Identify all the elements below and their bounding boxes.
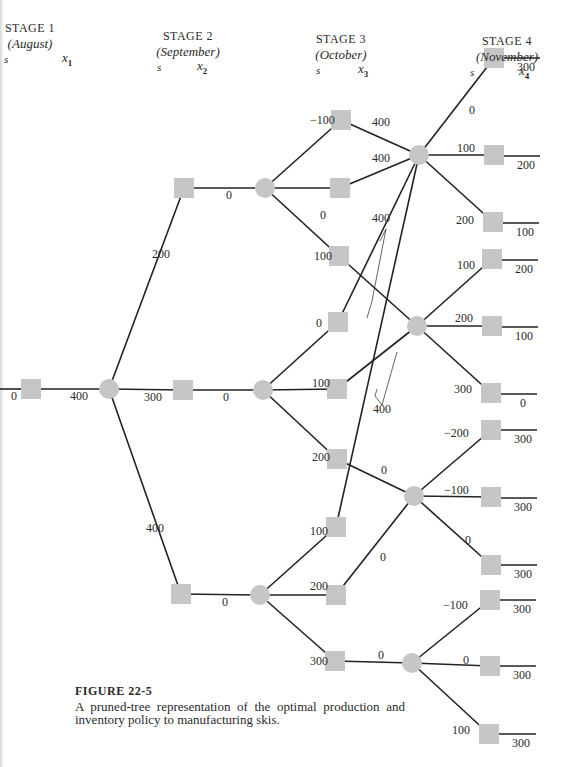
stage-month: (September) <box>138 44 238 59</box>
state-var-label-4: s <box>470 66 474 78</box>
decision-node-square <box>481 420 501 440</box>
terminal-value: 0 <box>520 396 526 410</box>
decision-node-square <box>327 449 347 469</box>
stage-header-2: STAGE 2 (September) <box>138 29 238 59</box>
terminal-lines: 3002001002001000300300300300300300 <box>499 58 540 750</box>
terminal-value: 100 <box>515 329 533 343</box>
decision-node-square <box>173 380 193 400</box>
edge-label: −100 <box>310 113 335 127</box>
tree-edge <box>265 120 341 188</box>
edge-label: 200 <box>312 450 330 464</box>
tree-edge <box>337 459 414 496</box>
decision-node-square <box>480 656 500 676</box>
tree-edge <box>260 595 335 661</box>
decision-var-subscript: 3 <box>364 69 369 79</box>
edge-label: 400 <box>372 115 390 129</box>
figure-description: A pruned-tree representation of the opti… <box>75 700 405 726</box>
stage-header-4: STAGE 4 (November) <box>457 34 557 64</box>
tree-edge <box>335 661 412 663</box>
tree-edge <box>419 155 493 222</box>
edge-label: 200 <box>456 213 474 227</box>
stage-header-1: STAGE 1 (August) <box>0 21 80 51</box>
decision-var-subscript: 1 <box>68 58 73 68</box>
stage-title: STAGE 2 <box>138 29 238 44</box>
decision-node-square <box>327 379 347 399</box>
edge-label: 0 <box>320 208 326 222</box>
edge-label: 0 <box>380 550 386 564</box>
decision-var-label-4: x4 <box>519 63 529 81</box>
decision-node-square <box>328 312 348 332</box>
tree-edge <box>181 594 260 595</box>
edge-labels: 0400300200400000−10001000100200100200300… <box>11 103 475 737</box>
edge-label: 400 <box>70 389 88 403</box>
decision-node-square <box>174 178 194 198</box>
edge-label: 300 <box>454 382 472 396</box>
edge-label: 100 <box>310 524 328 538</box>
stage-title: STAGE 3 <box>291 32 391 47</box>
label-brackets <box>367 229 397 405</box>
edge-label: 400 <box>373 402 391 416</box>
edge-label: 200 <box>152 247 170 261</box>
tree-nodes <box>21 48 504 744</box>
decision-node-square <box>484 145 504 165</box>
stage-header-3: STAGE 3 (October) <box>291 32 391 62</box>
tree-edge <box>336 496 414 595</box>
tree-edge <box>412 663 489 734</box>
edge-label: 300 <box>310 654 328 668</box>
chance-node-circle <box>402 653 422 673</box>
decision-var-label-3: x3 <box>358 61 368 79</box>
stage-title: STAGE 4 <box>457 34 557 49</box>
edge-label: 100 <box>457 258 475 272</box>
decision-var-subscript: 2 <box>203 66 208 76</box>
terminal-value: 300 <box>514 500 532 514</box>
stage-title: STAGE 1 <box>0 21 80 36</box>
decision-node-square <box>171 584 191 604</box>
edge-label: 0 <box>222 595 228 609</box>
edge-label: 100 <box>452 723 470 737</box>
stage-month: (August) <box>0 36 80 51</box>
stage-month: (November) <box>457 49 557 64</box>
edge-label: 200 <box>455 311 473 325</box>
terminal-value: 200 <box>517 158 535 172</box>
chance-node-circle <box>253 380 273 400</box>
chance-node-circle <box>250 585 270 605</box>
decision-node-square <box>326 517 346 537</box>
stage-month: (October) <box>291 47 391 62</box>
terminal-value: 300 <box>514 567 532 581</box>
decision-node-square <box>483 212 503 232</box>
tree-edge <box>412 663 490 666</box>
chance-node-circle <box>404 486 424 506</box>
state-var-label-3: s <box>316 64 320 76</box>
decision-node-square <box>21 379 41 399</box>
decision-var-label-2: x2 <box>197 58 207 76</box>
terminal-value: 200 <box>515 262 533 276</box>
terminal-value: 300 <box>514 432 532 446</box>
edge-label: 0 <box>469 103 475 117</box>
decision-node-square <box>325 651 345 671</box>
terminal-value: 300 <box>513 668 531 682</box>
decision-node-square <box>329 246 349 266</box>
decision-var-label-1: x1 <box>62 50 72 68</box>
tree-edge <box>338 155 419 322</box>
decision-node-square <box>480 590 500 610</box>
terminal-value: 300 <box>513 602 531 616</box>
edge-label: 0 <box>381 463 387 477</box>
chance-node-circle <box>99 379 119 399</box>
edge-label: 0 <box>465 533 471 547</box>
edge-label: 200 <box>310 579 328 593</box>
edge-label: 0 <box>378 648 384 662</box>
bracket-pointer <box>375 352 397 405</box>
edge-label: 400 <box>372 211 390 225</box>
tree-edge <box>337 326 417 389</box>
tree-edge <box>263 390 337 459</box>
edge-label: 300 <box>144 390 162 404</box>
edge-label: 0 <box>11 389 17 403</box>
edge-label: 100 <box>312 376 330 390</box>
decision-node-square <box>481 383 501 403</box>
terminal-value: 100 <box>516 225 534 239</box>
figure-caption: FIGURE 22-5 A pruned-tree representation… <box>75 684 405 726</box>
edge-label: −100 <box>444 483 469 497</box>
pruned-tree-diagram: 3002001002001000300300300300300300 04003… <box>0 0 571 767</box>
tree-edge <box>414 496 491 565</box>
decision-node-square <box>326 585 346 605</box>
